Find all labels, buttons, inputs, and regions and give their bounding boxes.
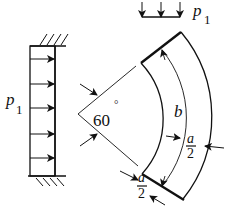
bottom-end-edge	[142, 174, 184, 200]
inner-arc	[141, 63, 163, 174]
load-rect	[30, 46, 55, 176]
outer-arc	[181, 32, 212, 199]
angle-label: 60	[93, 111, 110, 130]
right-a-denominator: 2	[187, 146, 194, 161]
top-end-edge	[141, 32, 181, 63]
top-load-diagram	[142, 2, 180, 17]
left-load-subscript: 1	[16, 102, 23, 117]
left-load-arrows	[30, 59, 54, 158]
top-load-label: p	[192, 1, 202, 20]
right-a-numerator: a	[187, 131, 194, 146]
top-support-hatch	[30, 34, 68, 46]
bottom-a-numerator: a	[138, 170, 145, 185]
top-load-subscript: 1	[204, 12, 211, 27]
bottom-support-hatch	[28, 176, 66, 186]
diagram-canvas: p 1 p 1 60 ° b	[0, 0, 234, 212]
left-load-label: p	[5, 90, 15, 109]
b-label: b	[174, 102, 183, 121]
right-width-label: a 2	[186, 131, 196, 161]
left-load-diagram: p 1	[5, 34, 68, 186]
bottom-a-denominator: 2	[138, 186, 145, 201]
bottom-width-label: a 2	[137, 170, 147, 201]
degree-symbol: °	[114, 98, 118, 110]
